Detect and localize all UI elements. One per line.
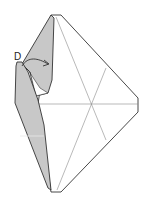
origami-diagram: D bbox=[0, 0, 145, 202]
diagram-svg bbox=[0, 0, 145, 202]
point-d-label: D bbox=[14, 52, 21, 62]
